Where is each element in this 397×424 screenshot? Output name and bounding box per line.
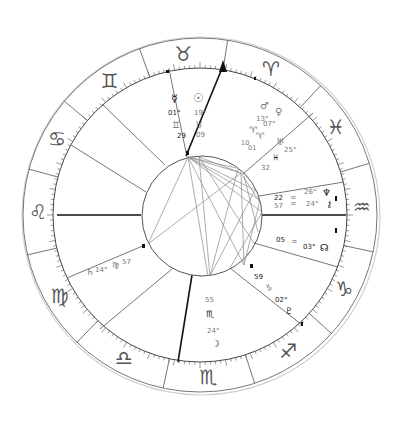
venus-minutes: 01 [248,144,256,152]
sign-aquarius-icon: ♒ [353,195,371,219]
venus-glyph: ♀ [275,106,282,117]
neptune-degree: 26° [304,188,316,196]
venus-sign: ♈ [256,131,265,141]
sign-scorpio-icon: ♏ [200,365,218,389]
chiron-degree: 24° [306,200,318,208]
uranus-degree: 25° [284,146,296,154]
mars-glyph: ♂ [260,100,269,111]
sign-pisces-icon: ♓ [327,115,345,139]
natal-chart-wheel: ♉♈♓♒♑♐♏♎♍♌♋♊ [0,0,397,424]
neptune-glyph: ♆ [322,187,331,198]
pluto-sign: ♑ [265,283,273,293]
sign-cancer-icon: ♋ [48,127,66,151]
sign-virgo-icon: ♍ [51,284,69,308]
sign-capricorn-icon: ♑ [335,277,353,301]
moon-glyph: ☽ [211,338,220,349]
mercury-sign: ♊ [172,120,180,130]
sign-aries-icon: ♈ [262,57,280,81]
sign-gemini-icon: ♊ [100,69,118,93]
pluto-degree: 02° [275,296,287,304]
node-sign: ♒ [291,238,297,246]
uranus-minutes: 32 [261,164,270,172]
saturn-degree: 14° [95,266,107,274]
sign-leo-icon: ♌ [29,200,47,224]
moon-degree: 24° [207,327,219,335]
sun-minutes: 09 [196,131,205,139]
node-glyph: ☊ [320,242,329,253]
chiron-minutes: 57 [274,202,283,210]
saturn-minutes: 57 [122,258,131,266]
moon-minutes: 55 [205,296,214,304]
sun-degree: 19° [194,109,206,117]
sun-sign: ♉ [195,120,203,130]
mercury-minutes: 29 [177,132,186,140]
venus-degree: 07° [263,120,275,128]
sun-glyph: ☉ [193,91,204,105]
mercury-glyph: ☿ [171,92,178,105]
pluto-glyph: ♇ [285,306,293,316]
sign-taurus-icon: ♉ [174,42,192,66]
uranus-sign: ♓ [272,153,279,162]
moon-sign: ♏ [206,309,214,319]
chiron-glyph: ⚷ [326,199,333,209]
mercury-degree: 01° [168,109,180,117]
uranus-glyph: ♅ [276,137,284,147]
chiron-sign: ♒ [290,200,296,208]
node-degree: 03° [303,243,315,251]
node-minutes: 05 [276,236,285,244]
pluto-minutes: 59 [254,273,263,281]
saturn-sign: ♍ [112,261,119,270]
sign-libra-icon: ♎ [115,346,133,370]
midheaven-arrow-icon [219,60,227,72]
imum-coeli-axis [178,275,192,362]
saturn-glyph: ♄ [86,267,94,277]
planet-ring-markers [166,70,337,326]
sign-sagittarius-icon: ♐ [279,339,297,363]
neptune-minutes: 22 [274,194,283,202]
